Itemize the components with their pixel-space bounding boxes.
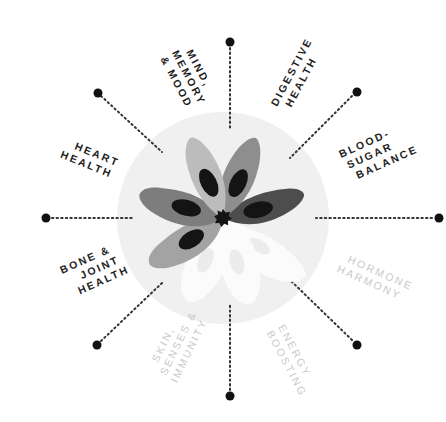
label-hormone-harmony: HORMONE HARMONY: [335, 250, 415, 304]
dot-upper-left: [94, 89, 103, 98]
label-energy-boosting: ENERGY BOOSTING: [265, 322, 321, 398]
dot-bottom: [226, 392, 235, 401]
label-mind-memory-mood: MIND, MEMORY & MOOD: [158, 42, 220, 113]
dot-right: [435, 214, 444, 223]
dot-lower-right: [353, 341, 362, 350]
dot-top: [226, 38, 235, 47]
label-heart-health: HEART HEALTH: [59, 136, 121, 181]
spoke-upper-left: [101, 96, 162, 152]
dot-left: [42, 214, 51, 223]
label-digestive-health: DIGESTIVE HEALTH: [268, 35, 326, 114]
dot-lower-left: [93, 341, 102, 350]
spoke-lower-right: [290, 280, 352, 340]
health-benefits-wheel: MIND, MEMORY & MOOD DIGESTIVE HEALTH BLO…: [0, 0, 446, 422]
dot-upper-right: [353, 88, 362, 97]
label-bone-joint-health: BONE & JOINT HEALTH: [58, 239, 131, 299]
label-blood-sugar-balance: BLOOD- SUGAR BALANCE: [337, 119, 420, 184]
